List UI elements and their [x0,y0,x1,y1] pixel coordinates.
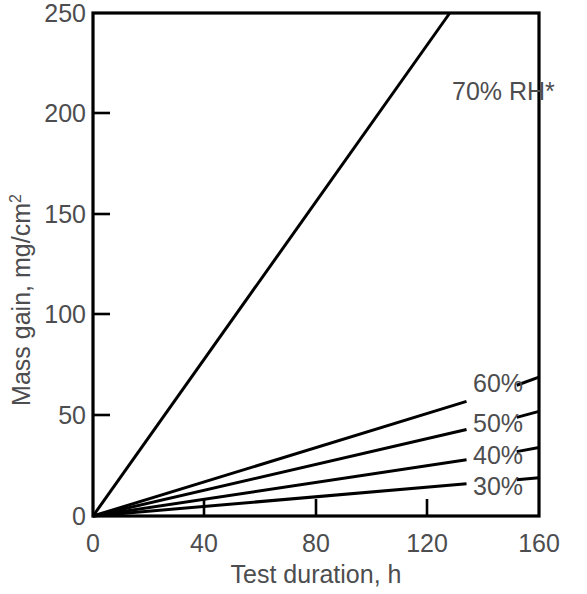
series-label-70: 70% RH* [452,77,555,105]
x-tick-labels: 0 40 80 120 160 [86,529,560,557]
y-tick-label-50: 50 [58,401,86,429]
series-line-50 [93,429,467,516]
x-axis-title: Test duration, h [231,560,402,588]
x-tick-label-0: 0 [86,529,100,557]
series-label-40: 40% [473,441,523,469]
series-label-50: 50% [473,409,523,437]
y-axis-title: Mass gain, mg/cm2 [7,194,35,406]
x-tick-label-40: 40 [190,529,218,557]
mass-gain-line-chart: 0 50 100 150 200 250 0 40 80 120 160 Tes… [0,0,587,594]
series-label-60: 60% [473,369,523,397]
series-line-70 [93,13,450,516]
x-tick-label-160: 160 [518,529,560,557]
y-tick-label-100: 100 [44,300,86,328]
y-tick-label-250: 250 [44,0,86,27]
x-tick-label-80: 80 [302,529,330,557]
y-tick-label-150: 150 [44,200,86,228]
x-tick-label-120: 120 [406,529,448,557]
x-axis-ticks [204,499,427,516]
y-tick-labels: 0 50 100 150 200 250 [44,0,86,530]
y-axis-ticks [93,113,110,415]
chart-figure: 0 50 100 150 200 250 0 40 80 120 160 Tes… [0,0,587,594]
y-tick-label-0: 0 [72,502,86,530]
series-label-30: 30% [473,472,523,500]
y-axis-title-superscript: 2 [7,194,24,203]
y-axis-title-base: Mass gain, mg/cm [7,203,35,406]
y-tick-label-200: 200 [44,99,86,127]
